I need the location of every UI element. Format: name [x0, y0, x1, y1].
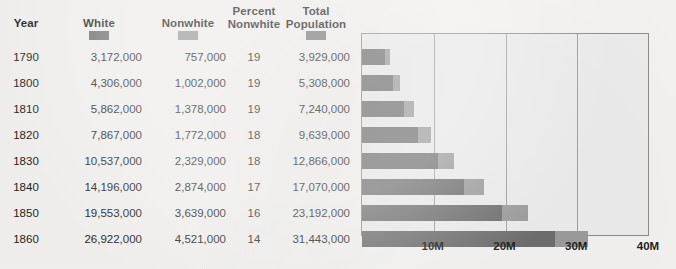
x-axis-tick-labels: 10M20M30M40M — [361, 240, 661, 258]
column-header-line2: Population — [261, 18, 371, 31]
cell-white: 5,862,000 — [56, 96, 142, 122]
cell-total-population: 3,929,000 — [282, 44, 350, 70]
legend-swatch-total-population — [306, 31, 326, 40]
column-header-line1: Year — [14, 17, 39, 29]
bar-segment-nonwhite — [464, 179, 485, 195]
cell-percent-nonwhite: 18 — [230, 148, 278, 174]
table-row: 185019,553,0003,639,0001623,192,000 — [0, 200, 352, 226]
cell-percent-nonwhite: 19 — [230, 96, 278, 122]
cell-total-population: 9,639,000 — [282, 122, 350, 148]
cell-percent-nonwhite: 19 — [230, 44, 278, 70]
cell-year: 1840 — [4, 174, 48, 200]
bar-segment-white — [362, 127, 418, 143]
bar-1790 — [362, 49, 390, 65]
table-row: 186026,922,0004,521,0001431,443,000 — [0, 226, 352, 252]
cell-year: 1830 — [4, 148, 48, 174]
cell-white: 19,553,000 — [56, 200, 142, 226]
cell-total-population: 5,308,000 — [282, 70, 350, 96]
bar-segment-white — [362, 179, 464, 195]
table-row: 184014,196,0002,874,0001717,070,000 — [0, 174, 352, 200]
cell-total-population: 31,443,000 — [282, 226, 350, 252]
cell-nonwhite: 1,772,000 — [150, 122, 226, 148]
bar-segment-nonwhite — [404, 101, 414, 117]
cell-percent-nonwhite: 17 — [230, 174, 278, 200]
cell-nonwhite: 3,639,000 — [150, 200, 226, 226]
table-row: 183010,537,0002,329,0001812,866,000 — [0, 148, 352, 174]
bar-segment-white — [362, 75, 393, 91]
cell-total-population: 17,070,000 — [282, 174, 350, 200]
stacked-bar-chart — [361, 33, 649, 236]
cell-nonwhite: 2,874,000 — [150, 174, 226, 200]
bar-1830 — [362, 153, 454, 169]
bar-segment-nonwhite — [418, 127, 431, 143]
cell-white: 7,867,000 — [56, 122, 142, 148]
population-table-chart-figure: YearWhiteNonwhitePercentNonwhiteTotalPop… — [0, 0, 676, 269]
cell-nonwhite: 4,521,000 — [150, 226, 226, 252]
cell-total-population: 23,192,000 — [282, 200, 350, 226]
bar-series-container — [362, 33, 649, 236]
bar-1850 — [362, 205, 528, 221]
cell-year: 1860 — [4, 226, 48, 252]
table-header-row: YearWhiteNonwhitePercentNonwhiteTotalPop… — [0, 0, 352, 44]
bar-segment-nonwhite — [385, 49, 390, 65]
x-tick-label-30M: 30M — [553, 240, 599, 252]
bar-segment-nonwhite — [502, 205, 528, 221]
bar-segment-nonwhite — [438, 153, 455, 169]
cell-white: 10,537,000 — [56, 148, 142, 174]
cell-total-population: 7,240,000 — [282, 96, 350, 122]
column-header-total-population: TotalPopulation — [261, 5, 371, 30]
cell-nonwhite: 1,378,000 — [150, 96, 226, 122]
cell-percent-nonwhite: 18 — [230, 122, 278, 148]
cell-percent-nonwhite: 16 — [230, 200, 278, 226]
column-header-line1: Total — [302, 5, 329, 17]
cell-year: 1800 — [4, 70, 48, 96]
population-data-table: YearWhiteNonwhitePercentNonwhiteTotalPop… — [0, 0, 352, 269]
column-header-line1: White — [83, 17, 115, 29]
cell-white: 14,196,000 — [56, 174, 142, 200]
table-row: 17903,172,000757,000193,929,000 — [0, 44, 352, 70]
cell-year: 1810 — [4, 96, 48, 122]
cell-nonwhite: 1,002,000 — [150, 70, 226, 96]
x-tick-label-10M: 10M — [410, 240, 456, 252]
bar-segment-white — [362, 205, 502, 221]
x-tick-label-40M: 40M — [625, 240, 671, 252]
bar-1840 — [362, 179, 484, 195]
legend-swatch-nonwhite — [178, 31, 198, 40]
cell-percent-nonwhite: 19 — [230, 70, 278, 96]
bar-segment-white — [362, 101, 404, 117]
x-tick-label-20M: 20M — [482, 240, 528, 252]
bar-segment-white — [362, 153, 438, 169]
legend-swatch-white — [89, 31, 109, 40]
bar-1820 — [362, 127, 431, 143]
cell-total-population: 12,866,000 — [282, 148, 350, 174]
cell-percent-nonwhite: 14 — [230, 226, 278, 252]
cell-year: 1820 — [4, 122, 48, 148]
bar-segment-white — [362, 49, 385, 65]
table-row: 18207,867,0001,772,000189,639,000 — [0, 122, 352, 148]
bar-1810 — [362, 101, 414, 117]
table-row: 18105,862,0001,378,000197,240,000 — [0, 96, 352, 122]
bar-segment-nonwhite — [393, 75, 400, 91]
cell-year: 1790 — [4, 44, 48, 70]
cell-year: 1850 — [4, 200, 48, 226]
bar-1800 — [362, 75, 400, 91]
table-row: 18004,306,0001,002,000195,308,000 — [0, 70, 352, 96]
cell-nonwhite: 757,000 — [150, 44, 226, 70]
cell-white: 3,172,000 — [56, 44, 142, 70]
cell-white: 4,306,000 — [56, 70, 142, 96]
cell-white: 26,922,000 — [56, 226, 142, 252]
cell-nonwhite: 2,329,000 — [150, 148, 226, 174]
